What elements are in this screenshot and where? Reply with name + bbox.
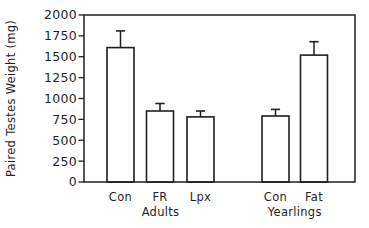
x-group-label-yearlings: Yearlings: [267, 205, 322, 219]
paired-testes-weight-bar-chart: 025050075010001250150017502000ConFRLpxCo…: [0, 0, 369, 228]
y-axis-title: Paired Testes Weight (mg): [4, 20, 18, 177]
y-tick-label-1750: 1750: [44, 28, 77, 43]
x-category-label-fat-yearlings: Fat: [305, 190, 323, 204]
figure-page: 025050075010001250150017502000ConFRLpxCo…: [0, 0, 369, 228]
y-tick-label-1250: 1250: [44, 70, 77, 85]
x-category-label-lpx-adults: Lpx: [190, 190, 211, 204]
bar-con-adults: [107, 48, 134, 182]
y-tick-label-250: 250: [52, 154, 77, 169]
y-tick-label-0: 0: [69, 174, 77, 189]
bar-con-yearlings: [262, 116, 289, 182]
y-tick-label-750: 750: [52, 112, 77, 127]
x-category-label-con-adults: Con: [109, 190, 132, 204]
bar-fr-adults: [147, 111, 174, 182]
bar-lpx-adults: [187, 117, 214, 182]
y-tick-label-500: 500: [52, 133, 77, 148]
x-category-label-fr-adults: FR: [152, 190, 167, 204]
y-tick-label-2000: 2000: [44, 7, 77, 22]
y-tick-label-1000: 1000: [44, 91, 77, 106]
y-tick-label-1500: 1500: [44, 49, 77, 64]
bar-fat-yearlings: [301, 55, 328, 182]
x-category-label-con-yearlings: Con: [264, 190, 287, 204]
x-group-label-adults: Adults: [142, 205, 180, 219]
